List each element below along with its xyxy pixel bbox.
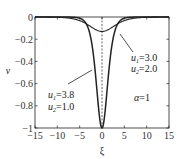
y-tick-label: 0 xyxy=(28,12,33,23)
y-axis-label: v xyxy=(6,65,11,76)
annotation-alpha: α=1 xyxy=(134,92,150,103)
y-tick-label: −0.8 xyxy=(15,100,33,111)
x-tick-label: −15 xyxy=(27,130,43,141)
y-tick-label: −0.6 xyxy=(15,78,33,89)
annotation-u2-lower: u2=1.0 xyxy=(48,101,74,113)
x-tick-label: −5 xyxy=(74,130,85,141)
line-chart: 0−0.2−0.4−0.6−0.8−1 −15−10−5051015 u1=3.… xyxy=(0,0,185,159)
annotation-u2-upper: u2=2.0 xyxy=(131,63,157,75)
annotation-pointer-upper xyxy=(120,34,133,52)
y-tick-label: −0.4 xyxy=(15,56,33,67)
x-axis-label: ξ xyxy=(100,145,105,157)
x-tick-label: 10 xyxy=(142,130,152,141)
annotation-pointer-lower xyxy=(68,70,92,84)
y-tick-label: −0.2 xyxy=(15,34,33,45)
x-tick-label: 15 xyxy=(164,130,174,141)
annotation-u1-lower: u1=3.8 xyxy=(48,89,74,101)
x-tick-label: 0 xyxy=(100,130,105,141)
x-tick-label: −10 xyxy=(50,130,66,141)
x-tick-label: 5 xyxy=(122,130,127,141)
